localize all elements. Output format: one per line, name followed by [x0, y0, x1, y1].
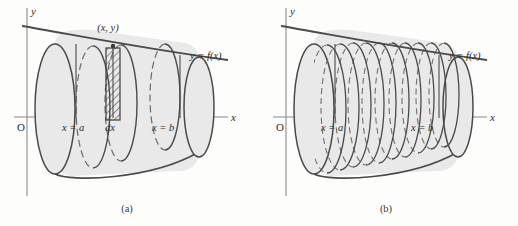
- x-axis-label-b: x: [489, 111, 495, 123]
- right-cap-ellipse-a: [184, 57, 214, 157]
- mark-label-a-dx: dx: [105, 122, 115, 133]
- origin-label-b: O: [276, 121, 284, 133]
- caption-a: (a): [121, 203, 133, 215]
- panel-a: y x O (x, y) y = f(x) x = a dx x = b (a): [14, 5, 236, 215]
- origin-label-a: O: [17, 121, 25, 133]
- panel-b: y x O y = f(x) x = a x = b (b): [273, 5, 495, 215]
- mark-label-b-right: x = b: [410, 122, 433, 133]
- left-cap-ellipse-a: [35, 44, 75, 174]
- y-axis-label-b: y: [289, 5, 295, 17]
- y-axis-label-a: y: [30, 5, 36, 17]
- caption-b: (b): [380, 203, 393, 215]
- mark-label-a-left: x = a: [61, 122, 84, 133]
- x-axis-label-a: x: [230, 111, 236, 123]
- curve-label-b: y = f(x): [448, 50, 481, 62]
- figure-svg: y x O (x, y) y = f(x) x = a dx x = b (a): [0, 0, 518, 226]
- mark-label-b-left: x = a: [320, 122, 343, 133]
- mark-label-a-right: x = b: [151, 122, 174, 133]
- point-marker-a: [111, 44, 115, 48]
- figure-root: y x O (x, y) y = f(x) x = a dx x = b (a): [0, 0, 518, 226]
- point-label-a: (x, y): [97, 22, 119, 34]
- curve-label-a: y = f(x): [189, 50, 222, 62]
